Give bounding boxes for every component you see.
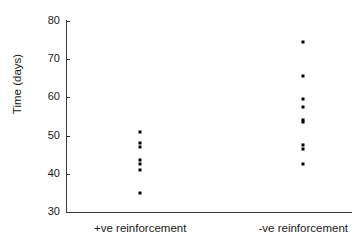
data-point xyxy=(302,41,305,44)
data-point xyxy=(139,146,142,149)
y-axis-title: Time (days) xyxy=(11,29,23,139)
y-axis-tick-label: 40 xyxy=(30,168,60,179)
y-axis-tick-label: 50 xyxy=(30,130,60,141)
plot-area xyxy=(66,21,352,212)
y-axis-tick-label-text: 60 xyxy=(32,91,60,102)
y-axis-tick-label-text: 50 xyxy=(32,130,60,141)
data-point xyxy=(302,121,305,124)
data-point xyxy=(139,163,142,166)
data-point xyxy=(139,168,142,171)
data-point xyxy=(302,98,305,101)
y-axis-tick-label: 60 xyxy=(30,91,60,102)
y-axis-tick-label-text: 80 xyxy=(32,15,60,26)
data-point xyxy=(302,144,305,147)
x-axis-category-left: +ve reinforcement xyxy=(94,222,186,234)
x-axis-line xyxy=(66,212,352,213)
data-point xyxy=(302,147,305,150)
data-point xyxy=(139,159,142,162)
y-axis-tick-label-text: 70 xyxy=(32,53,60,64)
y-axis-tick-label: 80 xyxy=(30,15,60,26)
data-point xyxy=(302,105,305,108)
data-point xyxy=(139,191,142,194)
data-point xyxy=(302,163,305,166)
y-axis-tick-label: 70 xyxy=(30,53,60,64)
data-point xyxy=(139,142,142,145)
y-axis-tick-label-text: 30 xyxy=(32,206,60,217)
data-point xyxy=(302,75,305,78)
scatter-plot-figure: Time (days) 304050607080 +ve reinforceme… xyxy=(0,0,359,245)
data-point xyxy=(139,130,142,133)
y-axis-tick-label-text: 40 xyxy=(32,168,60,179)
x-axis-category-right: -ve reinforcement xyxy=(259,222,348,234)
y-axis-tick-label: 30 xyxy=(30,206,60,217)
